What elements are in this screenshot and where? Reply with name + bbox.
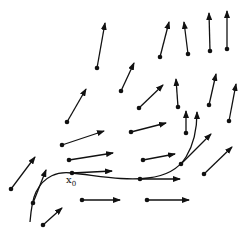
arrow-shaft: [184, 22, 188, 54]
arrow-shaft: [229, 84, 236, 121]
vector-arrow: [9, 157, 35, 191]
base-point-dot: [60, 143, 65, 148]
arrow-shaft: [176, 79, 178, 107]
vector-arrow: [95, 23, 105, 70]
vector-arrow: [176, 79, 181, 109]
vector-arrow: [207, 74, 216, 107]
base-point-dot: [208, 49, 213, 54]
vector-arrow: [184, 111, 189, 135]
vector-field-diagram: [0, 0, 252, 235]
arrow-shaft: [181, 134, 211, 164]
vector-arrow: [145, 198, 189, 203]
flow-curve: [30, 112, 197, 222]
base-point-dot: [9, 187, 14, 192]
arrow-shaft: [97, 23, 105, 68]
arrow-shaft: [11, 157, 35, 189]
vector-arrow: [225, 11, 230, 51]
vector-arrow: [227, 84, 236, 123]
arrow-shaft: [160, 22, 169, 57]
arrow-shaft: [67, 89, 86, 122]
base-point-dot: [129, 130, 134, 135]
base-point-dot: [141, 158, 146, 163]
arrow-shaft: [204, 147, 232, 174]
label-subscript: 0: [72, 180, 76, 188]
vector-arrow: [137, 85, 163, 110]
base-point-dot: [80, 198, 85, 203]
vector-arrow: [65, 89, 86, 124]
vector-arrow: [41, 208, 62, 227]
vector-arrow: [158, 22, 169, 59]
vector-arrow: [129, 123, 166, 134]
arrow-shaft: [139, 85, 163, 108]
base-point-dot: [137, 106, 142, 111]
base-point-dot: [225, 47, 230, 52]
base-point-dot: [186, 52, 191, 57]
vector-arrow: [67, 153, 113, 162]
vector-arrow: [202, 147, 232, 176]
vector-arrow: [184, 22, 190, 56]
vector-arrow: [80, 198, 120, 203]
base-point-dot: [227, 119, 232, 124]
base-point-dot: [158, 55, 163, 60]
arrow-shaft: [209, 13, 210, 51]
vector-arrow: [60, 131, 104, 147]
vector-arrow: [141, 154, 175, 162]
arrow-shaft: [62, 131, 104, 145]
arrow-shaft: [143, 154, 175, 160]
arrow-shaft: [209, 74, 216, 105]
arrow-shaft: [131, 123, 166, 132]
arrow-shaft: [69, 153, 113, 160]
arrow-shaft: [43, 208, 62, 225]
vector-arrow: [208, 13, 213, 53]
vector-arrow: [119, 63, 134, 93]
base-point-dot: [184, 131, 189, 136]
arrow-shaft: [121, 63, 134, 91]
base-point-dot: [65, 120, 70, 125]
vector-arrows: [9, 11, 236, 227]
base-point-dot: [145, 198, 150, 203]
base-point-dot: [176, 105, 181, 110]
base-point-dot: [207, 103, 212, 108]
base-point-dot: [202, 172, 207, 177]
base-point-dot: [95, 66, 100, 71]
base-point-dot: [119, 89, 124, 94]
base-point-dot: [67, 158, 72, 163]
base-point-dot: [41, 223, 46, 228]
arrow-shaft: [72, 171, 112, 173]
point-label-x0: x0: [66, 174, 76, 188]
